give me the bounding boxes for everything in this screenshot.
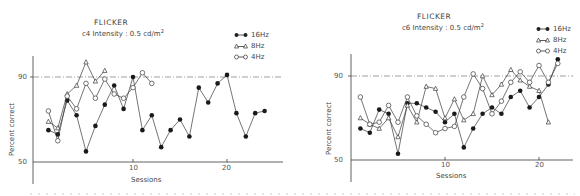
data-point-4hz: [386, 103, 391, 108]
data-point-4hz: [396, 120, 401, 125]
data-point-16hz: [480, 112, 485, 117]
data-point-4hz: [424, 122, 429, 127]
data-point-16hz: [197, 85, 202, 90]
data-point-8hz: [509, 67, 513, 71]
data-point-8hz: [546, 120, 550, 124]
chart-panel-c4: FLICKER c4 Intensity : 0.5 cd/m2 16Hz 8H…: [0, 0, 290, 196]
data-point-4hz: [405, 95, 410, 100]
data-point-8hz: [358, 116, 362, 120]
data-point-4hz: [452, 124, 457, 129]
data-point-16hz: [74, 113, 79, 118]
data-point-16hz: [499, 112, 504, 117]
data-point-16hz: [471, 126, 476, 131]
data-point-4hz: [112, 92, 117, 97]
data-point-16hz: [234, 111, 239, 116]
data-point-16hz: [187, 134, 192, 139]
data-point-16hz: [424, 105, 429, 110]
data-point-16hz: [103, 102, 108, 107]
data-point-4hz: [131, 85, 136, 90]
chart-panel-c6: FLICKER c6 Intensity : 0.5 cd/m2 16Hz 8H…: [290, 0, 580, 196]
data-point-8hz: [537, 88, 541, 92]
data-point-8hz: [386, 116, 390, 120]
data-point-4hz: [556, 61, 561, 66]
data-point-16hz: [368, 130, 373, 135]
data-point-4hz: [433, 130, 438, 135]
data-point-4hz: [537, 63, 542, 68]
data-point-4hz: [93, 96, 98, 101]
data-point-4hz: [471, 72, 476, 77]
data-point-16hz: [93, 124, 98, 129]
data-point-16hz: [206, 100, 211, 105]
data-point-16hz: [121, 107, 126, 112]
data-point-8hz: [46, 119, 50, 123]
data-point-16hz: [509, 95, 514, 100]
data-point-16hz: [112, 83, 117, 88]
data-point-16hz: [253, 111, 258, 116]
data-point-8hz: [443, 116, 447, 120]
data-point-16hz: [377, 107, 382, 112]
data-point-8hz: [103, 68, 107, 72]
data-point-4hz: [65, 94, 70, 99]
data-point-4hz: [368, 122, 373, 127]
data-point-4hz: [499, 99, 504, 104]
data-point-4hz: [121, 96, 126, 101]
data-point-4hz: [377, 120, 382, 125]
data-point-16hz: [46, 128, 51, 133]
data-point-16hz: [452, 112, 457, 117]
data-point-16hz: [358, 126, 363, 131]
data-point-4hz: [56, 138, 61, 143]
data-point-4hz: [415, 114, 420, 119]
data-point-8hz: [471, 111, 475, 115]
data-point-16hz: [168, 128, 173, 133]
data-point-16hz: [462, 145, 467, 150]
data-point-4hz: [103, 77, 108, 82]
data-point-8hz: [74, 83, 78, 87]
data-point-16hz: [150, 113, 155, 118]
data-point-16hz: [262, 109, 267, 114]
data-point-16hz: [443, 120, 448, 125]
data-point-4hz: [74, 107, 79, 112]
data-point-16hz: [178, 117, 183, 122]
data-point-4hz: [46, 109, 51, 114]
data-point-4hz: [443, 126, 448, 131]
data-point-8hz: [415, 120, 419, 124]
series-line-16hz: [48, 75, 264, 151]
data-point-16hz: [131, 75, 136, 80]
data-point-16hz: [215, 81, 220, 86]
data-point-4hz: [480, 86, 485, 91]
plot-area: [290, 0, 580, 196]
data-point-4hz: [546, 80, 551, 85]
data-point-4hz: [462, 95, 467, 100]
caption-fragment: [0, 188, 580, 196]
data-point-16hz: [140, 128, 145, 133]
data-point-16hz: [527, 105, 532, 110]
data-point-8hz: [396, 135, 400, 139]
data-point-16hz: [433, 109, 438, 114]
data-point-8hz: [424, 84, 428, 88]
data-point-8hz: [452, 97, 456, 101]
data-point-16hz: [415, 101, 420, 106]
data-point-4hz: [490, 112, 495, 117]
series-line-8hz: [48, 62, 104, 128]
data-point-4hz: [518, 70, 523, 75]
data-point-16hz: [84, 149, 89, 154]
data-point-16hz: [159, 145, 164, 150]
data-point-8hz: [462, 118, 466, 122]
data-point-16hz: [225, 73, 230, 78]
plot-area: [0, 0, 290, 196]
data-point-4hz: [84, 81, 89, 86]
data-point-4hz: [140, 70, 145, 75]
data-point-4hz: [150, 81, 155, 86]
data-point-4hz: [509, 80, 514, 85]
series-line-4hz: [360, 63, 557, 132]
data-point-16hz: [518, 88, 523, 93]
data-point-16hz: [396, 151, 401, 156]
data-point-4hz: [358, 95, 363, 100]
data-point-8hz: [84, 60, 88, 64]
data-point-4hz: [527, 80, 532, 85]
data-point-16hz: [244, 134, 249, 139]
